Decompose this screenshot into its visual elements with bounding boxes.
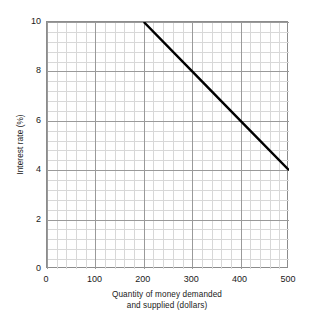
x-axis-title: Quantity of money demandedand supplied (…: [46, 289, 288, 311]
y-tick-label: 4: [1, 164, 46, 174]
y-tick-label: 2: [1, 214, 46, 224]
money-demand-chart: Interest rate (%) 0246810 01002003004005…: [0, 0, 310, 322]
x-axis-title-line: and supplied (dollars): [46, 300, 288, 311]
y-tick-label: 6: [1, 115, 46, 125]
grid-and-series: [47, 22, 289, 269]
series-line: [144, 22, 289, 170]
major-gridlines: [47, 22, 289, 269]
y-tick-label: 10: [1, 16, 46, 26]
x-tick-label: 200: [123, 274, 163, 284]
x-tick-label: 500: [268, 274, 308, 284]
x-tick-label: 300: [171, 274, 211, 284]
x-axis-title-line: Quantity of money demanded: [46, 289, 288, 300]
minor-gridlines: [47, 22, 289, 269]
x-tick-label: 0: [26, 274, 66, 284]
plot-area: [46, 21, 288, 268]
y-tick-label: 8: [1, 65, 46, 75]
x-tick-label: 400: [220, 274, 260, 284]
x-tick-label: 100: [74, 274, 114, 284]
series-lines: [144, 22, 289, 170]
y-axis-title: Interest rate (%): [14, 21, 28, 268]
y-tick-label: 0: [1, 263, 46, 273]
